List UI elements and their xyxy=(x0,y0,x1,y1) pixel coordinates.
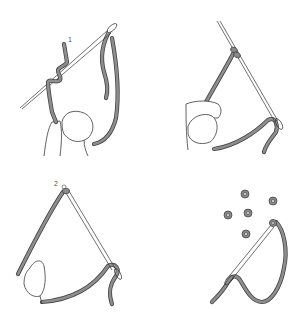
fingers-1 xyxy=(44,111,93,156)
thread-2 xyxy=(206,52,277,152)
bead-icon xyxy=(242,230,250,238)
step-label-2: 2 xyxy=(54,180,58,187)
illustration-canvas: 1 xyxy=(0,0,305,316)
thread-loop-1 xyxy=(94,30,118,144)
knot-3 xyxy=(62,185,70,194)
needle-2 xyxy=(217,21,284,130)
hand-2 xyxy=(186,101,221,150)
bead-icon xyxy=(224,211,232,219)
bead-icon xyxy=(241,190,249,198)
needle-3 xyxy=(66,191,123,280)
panel-2 xyxy=(186,21,284,152)
panel-4 xyxy=(212,190,286,302)
step-label-1: 1 xyxy=(68,36,72,43)
panel-3 xyxy=(18,185,123,304)
finished-beads xyxy=(224,190,277,238)
thumb-3 xyxy=(24,261,45,304)
bead-icon xyxy=(269,197,277,205)
thread-wraps-1 xyxy=(48,44,67,122)
bead-icon xyxy=(244,209,252,217)
knot-4 xyxy=(269,219,276,226)
